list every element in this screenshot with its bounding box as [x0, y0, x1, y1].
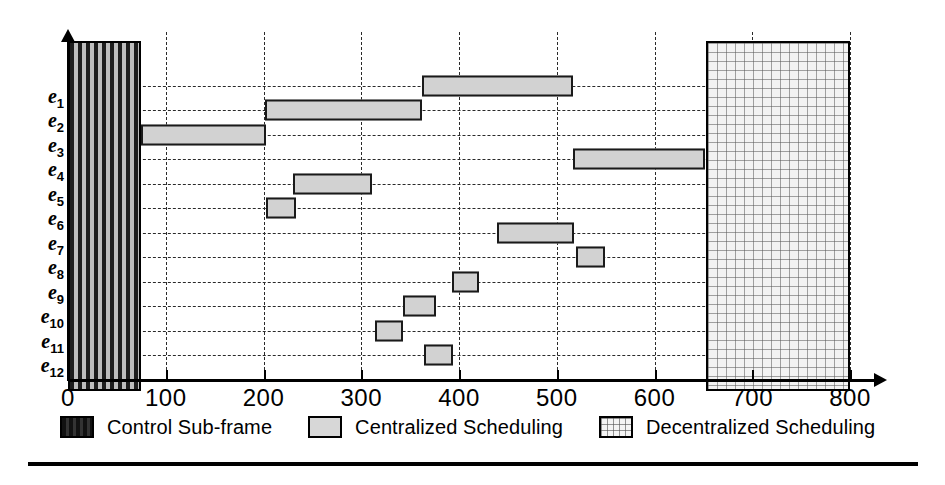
y-axis-label-e10: e10: [41, 305, 64, 331]
y-label-base: e: [41, 354, 50, 376]
x-axis-tick-label: 800: [829, 384, 871, 412]
task-bar-e10: [403, 296, 435, 317]
y-label-base: e: [48, 85, 57, 107]
x-axis-arrow-icon: [874, 373, 887, 387]
vertical-gridline: [850, 32, 851, 380]
plot-area: [68, 32, 850, 380]
x-axis-tick: [557, 370, 559, 379]
y-axis-label-e2: e2: [48, 109, 64, 135]
x-axis-tick: [655, 370, 657, 379]
x-axis-line: [68, 379, 876, 382]
task-bar-e1: [422, 76, 574, 97]
y-axis-arrow-icon: [61, 29, 75, 42]
vertical-gridline: [264, 32, 265, 380]
y-axis-label-e5: e5: [48, 183, 64, 209]
y-label-base: e: [48, 256, 57, 278]
task-bar-e3: [141, 124, 266, 145]
x-axis-tick-label: 200: [243, 384, 285, 412]
x-axis-tick-label: 700: [731, 384, 773, 412]
x-axis-tick-label: 500: [536, 384, 578, 412]
y-axis-label-e6: e6: [48, 207, 64, 233]
legend-label: Control Sub-frame: [107, 416, 272, 439]
centralized-scheduling-swatch: [308, 416, 342, 438]
y-label-base: e: [48, 183, 57, 205]
chart-legend: Control Sub-frameCentralized SchedulingD…: [60, 410, 900, 444]
legend-label: Decentralized Scheduling: [646, 416, 875, 439]
task-bar-e11: [375, 320, 403, 341]
legend-entry-control-subframe: Control Sub-frame: [60, 416, 272, 439]
task-bar-e8: [576, 247, 604, 268]
y-label-base: e: [48, 232, 57, 254]
y-axis-label-e11: e11: [41, 330, 64, 356]
y-label-base: e: [48, 207, 57, 229]
vertical-gridline: [655, 32, 656, 380]
y-label-base: e: [48, 134, 57, 156]
y-label-base: e: [41, 305, 50, 327]
task-bar-e7: [497, 222, 574, 243]
legend-label: Centralized Scheduling: [355, 416, 563, 439]
y-axis-label-e4: e4: [48, 158, 64, 184]
vertical-gridline: [361, 32, 362, 380]
x-axis-tick: [166, 370, 168, 379]
x-axis-tick-label: 0: [61, 384, 75, 412]
legend-entry-centralized-scheduling: Centralized Scheduling: [308, 416, 563, 439]
control-subframe-swatch: [60, 416, 94, 438]
x-axis-tick: [752, 370, 754, 379]
y-axis-line: [67, 40, 70, 381]
vertical-gridline: [166, 32, 167, 380]
gantt-chart-figure: e1e2e3e4e5e6e7e8e9e10e11e12 010020030040…: [0, 0, 945, 485]
y-label-subscript: 12: [50, 365, 64, 380]
bottom-divider: [28, 462, 918, 466]
x-axis-tick-label: 100: [145, 384, 187, 412]
task-bar-e9: [452, 271, 478, 292]
y-label-base: e: [48, 109, 57, 131]
y-axis-label-e3: e3: [48, 134, 64, 160]
task-bar-e4: [573, 149, 705, 170]
control-subframe-region: [68, 41, 141, 391]
y-axis-label-e7: e7: [48, 232, 64, 258]
decentralized-scheduling-swatch: [599, 416, 633, 438]
x-axis-tick-label: 400: [438, 384, 480, 412]
task-bar-e12: [424, 344, 453, 365]
y-axis-label-e9: e9: [48, 281, 64, 307]
y-label-base: e: [41, 330, 50, 352]
y-axis-label-e12: e12: [41, 354, 64, 380]
y-axis-labels: e1e2e3e4e5e6e7e8e9e10e11e12: [0, 0, 64, 485]
x-axis-tick: [361, 370, 363, 379]
legend-entry-decentralized-scheduling: Decentralized Scheduling: [599, 416, 875, 439]
y-label-base: e: [48, 281, 57, 303]
y-label-base: e: [48, 158, 57, 180]
y-axis-label-e1: e1: [48, 85, 64, 111]
x-axis-tick-label: 600: [634, 384, 676, 412]
task-bar-e2: [265, 100, 421, 121]
decentralized-scheduling-region: [706, 41, 850, 391]
x-axis-tick: [264, 370, 266, 379]
task-bar-e5: [293, 173, 372, 194]
x-axis-tick-label: 300: [340, 384, 382, 412]
y-axis-label-e8: e8: [48, 256, 64, 282]
task-bar-e6: [266, 198, 295, 219]
x-axis-tick: [850, 370, 852, 379]
x-axis-tick: [459, 370, 461, 379]
